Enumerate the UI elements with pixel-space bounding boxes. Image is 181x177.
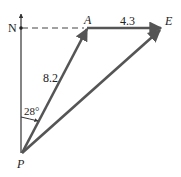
vector-pa [22, 29, 87, 153]
label-north: N [8, 22, 17, 34]
angle-arc [21, 117, 38, 121]
label-angle: 28° [24, 106, 39, 117]
label-e: E [165, 15, 172, 27]
vector-pe [22, 30, 160, 153]
label-ae-magnitude: 4.3 [120, 15, 135, 27]
vector-diagram: N A 4.3 E 8.2 28° P [0, 0, 181, 177]
label-pa-magnitude: 8.2 [43, 72, 58, 84]
label-a: A [84, 14, 91, 26]
label-p: P [17, 158, 24, 170]
